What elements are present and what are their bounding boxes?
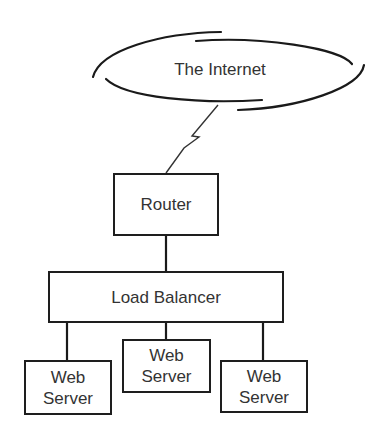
web-server-2-line1: Web [149,345,184,366]
router-label: Router [140,194,191,215]
internet-cloud-arc-lower-left [106,79,262,101]
web-server-1-line2: Server [43,388,93,409]
load-balancer-label: Load Balancer [111,287,221,308]
web-server-node-1: Web Server [24,360,112,415]
web-server-node-2: Web Server [122,339,211,393]
web-server-2-line2: Server [141,366,191,387]
web-server-1-line1: Web [51,367,86,388]
router-node: Router [113,173,219,236]
internet-label: The Internet [150,60,290,80]
load-balancer-node: Load Balancer [48,271,284,323]
web-server-3-line1: Web [247,366,282,387]
web-server-node-3: Web Server [220,360,308,413]
web-server-3-line2: Server [239,387,289,408]
lightning-link-icon [166,105,218,173]
